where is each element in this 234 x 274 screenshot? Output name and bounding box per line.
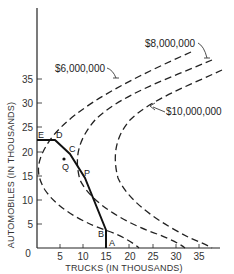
- point-label-e: E: [38, 130, 44, 140]
- point-label-d: D: [56, 130, 63, 140]
- y-tick-label: 15: [22, 171, 34, 182]
- y-tick-label: 5: [27, 219, 33, 230]
- y-tick-label: 20: [22, 147, 34, 158]
- isocost-curve-6m: [38, 52, 191, 248]
- point-label-p: P: [84, 168, 90, 178]
- x-tick-label: 10: [77, 251, 89, 262]
- curve-label-6m: $6,000,000: [55, 63, 105, 74]
- isocost-chart: 0 5 10 15 20 25 30 35 TRUCKS (IN THOUSAN…: [0, 0, 234, 274]
- point-label-q: Q: [62, 162, 69, 172]
- x-origin-label: 0: [25, 248, 31, 259]
- y-tick-label: 25: [22, 122, 34, 133]
- leader-10m: [150, 103, 165, 112]
- x-tick-label: 20: [124, 251, 136, 262]
- isocost-curve-10m: [115, 70, 222, 248]
- x-axis-title: TRUCKS (IN THOUSANDS): [65, 263, 183, 273]
- point-label-a: A: [109, 238, 115, 248]
- curve-label-10m: $10,000,000: [166, 106, 222, 117]
- x-tick-label: 35: [193, 251, 205, 262]
- y-tick-label: 35: [22, 74, 34, 85]
- x-tick-label: 30: [170, 251, 182, 262]
- y-ticks: [37, 79, 42, 224]
- isocost-curve-8m: [77, 60, 212, 248]
- point-label-b: B: [98, 229, 104, 239]
- x-tick-label: 5: [57, 251, 63, 262]
- leader-8m: [198, 43, 210, 58]
- point-q-marker: [62, 157, 65, 160]
- point-label-c: C: [69, 144, 76, 154]
- x-tick-label: 25: [147, 251, 159, 262]
- leader-6m: [107, 68, 119, 78]
- y-tick-label: 30: [22, 98, 34, 109]
- x-tick-label: 15: [100, 251, 112, 262]
- curve-label-8m: $8,000,000: [145, 38, 195, 49]
- y-axis-title: AUTOMOBILES (IN THOUSANDS): [6, 102, 16, 248]
- y-tick-label: 10: [22, 195, 34, 206]
